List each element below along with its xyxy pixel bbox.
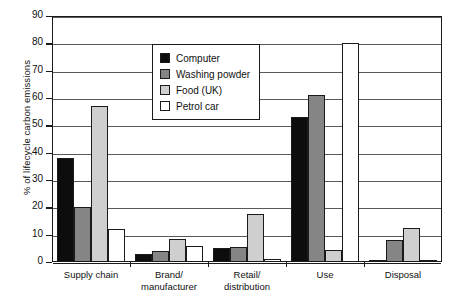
chart-legend: ComputerWashing powderFood (UK)Petrol ca… xyxy=(152,44,260,120)
category-tick xyxy=(130,262,131,267)
bar xyxy=(135,254,152,262)
bar xyxy=(57,158,74,262)
bar xyxy=(247,214,264,262)
bar xyxy=(213,248,230,262)
x-axis-label-line2: manufacturer xyxy=(130,281,208,293)
y-tick-label: 10 xyxy=(32,228,43,239)
bar xyxy=(186,246,203,262)
bar-group xyxy=(364,16,442,262)
x-axis-label: Retail/distribution xyxy=(208,269,286,292)
bar xyxy=(325,250,342,262)
legend-swatch-icon xyxy=(160,85,170,95)
legend-label: Computer xyxy=(176,53,220,64)
y-tick-label: 30 xyxy=(32,173,43,184)
y-tick-label: 90 xyxy=(32,9,43,20)
x-axis-label: Disposal xyxy=(364,269,442,292)
legend-swatch-icon xyxy=(160,53,170,63)
y-tick-label: 50 xyxy=(32,118,43,129)
legend-item: Computer xyxy=(160,50,250,66)
bar xyxy=(152,251,169,262)
category-tick xyxy=(286,262,287,267)
bar xyxy=(108,229,125,262)
legend-swatch-icon xyxy=(160,69,170,79)
x-axis-label-line1: Use xyxy=(317,269,334,280)
bar-group xyxy=(286,16,364,262)
y-tick-label: 20 xyxy=(32,200,43,211)
bar-chart: % of lifecycle carbon emissions 90807060… xyxy=(0,0,451,305)
x-axis-label: Brand/manufacturer xyxy=(130,269,208,292)
bar xyxy=(291,117,308,262)
legend-item: Petrol car xyxy=(160,98,250,114)
bar xyxy=(308,95,325,262)
bar xyxy=(169,239,186,262)
y-tick-label: 70 xyxy=(32,64,43,75)
y-tick-label: 40 xyxy=(32,146,43,157)
legend-swatch-icon xyxy=(160,101,170,111)
category-tick xyxy=(364,262,365,267)
category-tick xyxy=(208,262,209,267)
y-tick-label: 60 xyxy=(32,91,43,102)
x-axis-label: Use xyxy=(286,269,364,292)
legend-item: Food (UK) xyxy=(160,82,250,98)
legend-label: Food (UK) xyxy=(176,85,222,96)
x-axis-label-line2: distribution xyxy=(208,281,286,293)
category-ticks xyxy=(52,262,442,267)
y-tick-label: 80 xyxy=(32,36,43,47)
x-axis-label-line1: Brand/ xyxy=(155,269,183,280)
legend-item: Washing powder xyxy=(160,66,250,82)
legend-label: Washing powder xyxy=(176,69,250,80)
x-axis-label: Supply chain xyxy=(52,269,130,292)
bar xyxy=(74,207,91,262)
bar xyxy=(342,43,359,262)
x-axis-label-line1: Disposal xyxy=(385,269,421,280)
bar xyxy=(230,247,247,262)
x-axis-labels: Supply chainBrand/manufacturerRetail/dis… xyxy=(52,269,442,292)
bar-group xyxy=(52,16,130,262)
y-tick-label: 0 xyxy=(37,255,43,266)
x-axis-label-line1: Retail/ xyxy=(234,269,261,280)
bar xyxy=(386,240,403,262)
x-axis-label-line1: Supply chain xyxy=(64,269,118,280)
y-axis-ticks: 9080706050403020100 xyxy=(0,16,52,262)
bar xyxy=(91,106,108,262)
bar xyxy=(403,228,420,262)
legend-label: Petrol car xyxy=(176,101,219,112)
